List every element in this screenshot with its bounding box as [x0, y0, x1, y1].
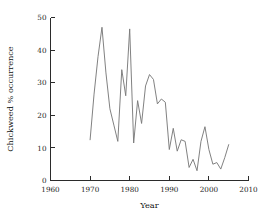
x-tick-label: 2000	[200, 185, 219, 194]
y-axis-tick-labels: 01020304050	[37, 13, 47, 185]
y-tick-label: 20	[37, 111, 47, 120]
y-axis-title: Chickweed % occurrence	[5, 46, 15, 152]
y-axis-ticks	[51, 18, 56, 181]
x-tick-label: 1970	[81, 185, 100, 194]
y-tick-label: 10	[37, 144, 47, 153]
x-axis-tick-labels: 196019701980199020002010	[41, 185, 258, 194]
x-tick-label: 1980	[121, 185, 140, 194]
chart-container: 01020304050 196019701980199020002010 Chi…	[0, 0, 268, 222]
x-axis-title: Year	[139, 200, 158, 210]
line-chart: 01020304050 196019701980199020002010 Chi…	[0, 0, 268, 222]
x-axis-ticks	[51, 176, 249, 181]
axes-group	[51, 18, 249, 181]
chickweed-occurrence-line	[90, 27, 229, 170]
y-tick-label: 40	[37, 46, 47, 55]
x-tick-label: 1990	[160, 185, 179, 194]
x-tick-label: 1960	[41, 185, 60, 194]
y-tick-label: 50	[37, 13, 47, 22]
x-tick-label: 2010	[239, 185, 258, 194]
y-tick-label: 0	[42, 176, 47, 185]
y-tick-label: 30	[37, 78, 47, 87]
